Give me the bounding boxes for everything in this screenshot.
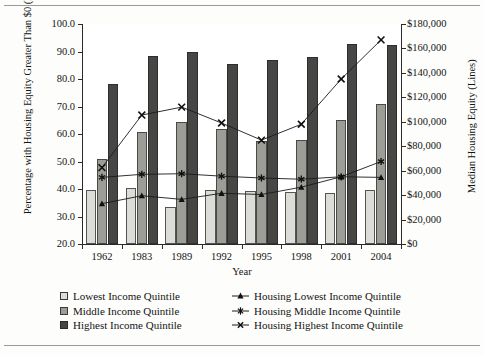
legend-column-bars: Lowest Income Quintile Middle Income Qui… [60, 289, 182, 333]
legend-label-highest: Highest Income Quintile [73, 318, 182, 333]
bar-q3-1989 [176, 122, 186, 244]
bar-q1-1989 [165, 207, 175, 244]
legend-label-housing-highest: Housing Highest Income Quintile [254, 318, 403, 333]
legend-column-lines: Housing Lowest Income Quintile Housing M… [232, 289, 403, 333]
bar-q3-2001 [336, 120, 346, 244]
y-axis-title-left: Percentage with Housing Equity Greater T… [22, 34, 35, 214]
legend-item-highest-income-quintile: Highest Income Quintile [60, 318, 182, 333]
legend-item-housing-lowest-income-quintile: Housing Lowest Income Quintile [232, 289, 403, 304]
bar-q5-1989 [187, 52, 197, 244]
bar-q5-1983 [148, 56, 158, 244]
legend-label-middle: Middle Income Quintile [73, 304, 179, 319]
legend-marker-asterisk-icon [232, 306, 249, 316]
bar-q1-1995 [245, 191, 255, 244]
legend-swatch-highest-icon [60, 321, 68, 329]
legend-label-housing-lowest: Housing Lowest Income Quintile [254, 289, 401, 304]
bar-q1-1992 [205, 190, 215, 244]
bar-q1-2001 [325, 193, 335, 244]
bar-q3-1998 [296, 140, 306, 244]
chart-figure: 20.030.040.050.060.070.080.090.0100.0 $0… [0, 0, 484, 355]
bar-q3-1995 [256, 141, 266, 244]
bar-q5-1995 [267, 60, 277, 244]
bar-q3-1983 [137, 132, 147, 244]
bar-q5-1998 [307, 57, 317, 244]
bar-q1-1998 [285, 192, 295, 244]
x-axis-title: Year [82, 266, 402, 277]
bar-q1-2004 [365, 190, 375, 244]
y-axis-title-right: Median Housing Equity (Lines) [466, 46, 479, 206]
legend-item-housing-middle-income-quintile: Housing Middle Income Quintile [232, 304, 403, 319]
legend-marker-cross-icon [232, 320, 249, 330]
bar-q1-1962 [86, 190, 96, 244]
bar-q3-2004 [376, 104, 386, 244]
legend-label-lowest: Lowest Income Quintile [73, 289, 180, 304]
legend-item-housing-highest-income-quintile: Housing Highest Income Quintile [232, 318, 403, 333]
bar-q1-1983 [126, 188, 136, 244]
legend-label-housing-middle: Housing Middle Income Quintile [254, 304, 400, 319]
legend-item-lowest-income-quintile: Lowest Income Quintile [60, 289, 182, 304]
bar-q3-1962 [97, 159, 107, 244]
legend-item-middle-income-quintile: Middle Income Quintile [60, 304, 182, 319]
legend-swatch-middle-icon [60, 307, 68, 315]
bar-q5-1992 [227, 64, 237, 244]
legend-marker-triangle-icon [232, 291, 249, 301]
bar-q5-2004 [387, 45, 397, 244]
bar-q5-1962 [108, 84, 118, 244]
bar-q5-2001 [347, 44, 357, 244]
bar-q3-1992 [216, 129, 226, 244]
legend-swatch-lowest-icon [60, 292, 68, 300]
